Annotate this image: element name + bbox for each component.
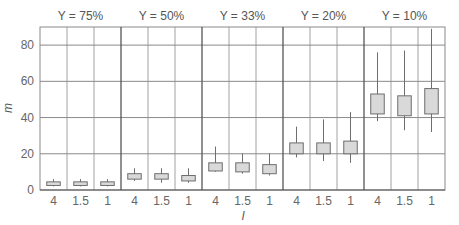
box-plots (47, 29, 439, 187)
box (101, 182, 115, 186)
y-tick-label: 40 (21, 111, 35, 125)
x-tick-label: 1.5 (153, 194, 170, 208)
box (290, 143, 304, 154)
y-tick-label: 60 (21, 74, 35, 88)
x-tick-label: 4 (293, 194, 300, 208)
y-tick-label: 20 (21, 147, 35, 161)
x-tick-label: 1 (347, 194, 354, 208)
box (425, 89, 439, 114)
x-tick-label: 1 (428, 194, 435, 208)
x-tick-label: 4 (374, 194, 381, 208)
box (317, 143, 331, 154)
x-tick-label: 4 (212, 194, 219, 208)
box (398, 96, 412, 116)
panel-title: Y = 10% (382, 9, 428, 23)
x-tick-label: 1 (185, 194, 192, 208)
y-tick-label: 0 (27, 183, 34, 197)
box (236, 163, 250, 172)
box-plot-chart: Y = 75%Y = 50%Y = 33%Y = 20%Y = 10% 0204… (0, 0, 459, 225)
box (344, 141, 358, 154)
box (155, 174, 169, 179)
box (209, 163, 223, 171)
box (371, 94, 385, 114)
box (74, 182, 88, 186)
x-tick-label: 1 (266, 194, 273, 208)
panel-title: Y = 20% (301, 9, 347, 23)
x-tick-label: 1.5 (72, 194, 89, 208)
box (182, 176, 196, 181)
y-tick-label: 80 (21, 38, 35, 52)
panel-title: Y = 75% (58, 9, 104, 23)
panel-title: Y = 50% (139, 9, 185, 23)
x-tick-label: 4 (131, 194, 138, 208)
box (47, 182, 61, 186)
x-tick-label: 4 (50, 194, 57, 208)
box (263, 165, 277, 174)
box (128, 174, 142, 179)
x-tick-label: 1 (104, 194, 111, 208)
panel-title: Y = 33% (220, 9, 266, 23)
x-tick-label: 1.5 (234, 194, 251, 208)
x-tick-label: 1.5 (396, 194, 413, 208)
x-axis-label: l (242, 209, 245, 223)
y-axis-label: m (1, 103, 15, 113)
x-tick-label: 1.5 (315, 194, 332, 208)
